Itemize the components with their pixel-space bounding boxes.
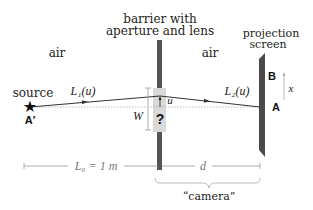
w-label: W — [133, 109, 144, 123]
d-label: d — [200, 159, 207, 173]
barrier-top — [157, 40, 162, 72]
diagram: ★ barrier with aperture and lens project… — [0, 0, 313, 210]
screen-label-2: screen — [249, 38, 286, 51]
source-label: source — [13, 86, 54, 100]
point-a-prime-label: A′ — [25, 114, 36, 126]
camera-brace — [155, 178, 260, 188]
point-a-label: A — [272, 101, 280, 113]
question-mark: ? — [156, 111, 165, 127]
point-b-label: B — [268, 70, 276, 82]
x-arrowhead — [283, 72, 286, 76]
air-left-label: air — [49, 46, 66, 60]
l0-label: L₀ = 1 m — [74, 159, 118, 173]
barrier-bottom — [157, 132, 162, 170]
x-label: x — [288, 82, 294, 94]
ray-2-arrow — [204, 99, 210, 104]
u-label: u — [167, 94, 173, 106]
path-2-label: L₂(u) — [224, 84, 250, 98]
camera-label: “camera” — [183, 190, 236, 203]
projection-screen — [259, 53, 265, 157]
path-1-label: L₁(u) — [70, 84, 96, 98]
ray-1-arrow — [82, 100, 88, 105]
barrier-label-2: aperture and lens — [106, 24, 214, 38]
barrier-mid — [157, 72, 162, 88]
air-right-label: air — [202, 46, 219, 60]
